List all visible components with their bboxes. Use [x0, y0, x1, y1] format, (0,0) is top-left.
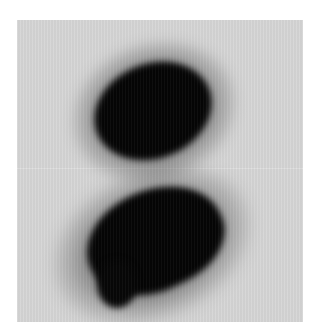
scan-panel — [17, 20, 303, 322]
lower-blob-tail — [97, 260, 137, 308]
